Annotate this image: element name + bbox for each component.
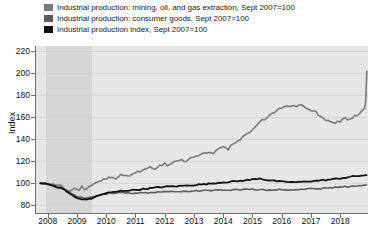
y-tick-mark (31, 51, 35, 52)
x-tick-label: 2018 (323, 217, 357, 226)
x-tick-mark (165, 214, 166, 218)
legend-item-mining: Industrial production: mining, oil, and … (44, 2, 364, 13)
y-tick-mark (31, 117, 35, 118)
x-axis-line (35, 213, 368, 214)
y-tick-mark (31, 205, 35, 206)
legend-label-mining: Industrial production: mining, oil, and … (57, 3, 295, 13)
legend-swatch-mining-icon (44, 4, 53, 11)
industrial-production-chart: Industrial production: mining, oil, and … (0, 0, 372, 244)
y-tick-label: 200 (0, 69, 30, 77)
x-tick-mark (106, 214, 107, 218)
y-tick-label: 180 (0, 91, 30, 99)
x-tick-mark (311, 214, 312, 218)
y-axis-title: Index (7, 93, 17, 153)
x-tick-mark (223, 214, 224, 218)
y-tick-label: 80 (0, 201, 30, 209)
legend-item-index: Industrial production index, Sept 2007=1… (44, 24, 364, 35)
y-tick-label: 120 (0, 157, 30, 165)
legend-label-index: Industrial production index, Sept 2007=1… (57, 25, 207, 35)
x-tick-mark (48, 214, 49, 218)
y-tick-label: 220 (0, 47, 30, 55)
x-tick-mark (282, 214, 283, 218)
x-tick-mark (252, 214, 253, 218)
y-axis-line (35, 46, 36, 214)
y-tick-label: 140 (0, 135, 30, 143)
y-tick-mark (31, 95, 35, 96)
x-tick-mark (135, 214, 136, 218)
y-tick-label: 160 (0, 113, 30, 121)
y-tick-mark (31, 73, 35, 74)
plot-svg (36, 46, 368, 213)
y-tick-mark (31, 161, 35, 162)
legend-label-consumer-goods: Industrial production: consumer goods, S… (57, 14, 249, 24)
legend-swatch-index-icon (44, 26, 53, 33)
plot-area (36, 46, 368, 213)
x-tick-mark (194, 214, 195, 218)
legend-item-consumer-goods: Industrial production: consumer goods, S… (44, 13, 364, 24)
legend-swatch-consumer-goods-icon (44, 15, 53, 22)
y-tick-label: 100 (0, 179, 30, 187)
y-tick-mark (31, 183, 35, 184)
y-tick-mark (31, 139, 35, 140)
x-tick-mark (340, 214, 341, 218)
chart-legend: Industrial production: mining, oil, and … (44, 2, 364, 35)
x-tick-mark (77, 214, 78, 218)
